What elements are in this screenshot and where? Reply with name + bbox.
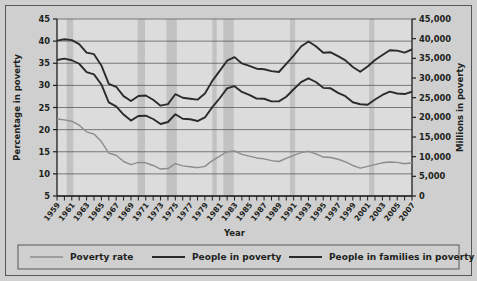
y-axis-right-tick-label: 5,000 xyxy=(419,171,445,181)
y-axis-right-tick-label: 45,000 xyxy=(419,14,451,24)
y-axis-right-tick-label: 25,000 xyxy=(419,93,451,103)
chart-figure: 4540353025201510545,00040,00035,00030,00… xyxy=(0,0,477,281)
y-axis-right: 45,00040,00035,00030,00025,00020,00015,0… xyxy=(412,14,451,201)
legend-label-1: People in poverty xyxy=(192,252,282,262)
chart-canvas: 4540353025201510545,00040,00035,00030,00… xyxy=(0,0,477,281)
y-axis-right-tick-label: 40,000 xyxy=(419,34,451,44)
x-axis-tick-label: 2007 xyxy=(397,201,417,223)
y-axis-right-tick-label: 10,000 xyxy=(419,152,451,162)
y-axis-left-tick-label: 20 xyxy=(38,125,50,135)
y-axis-left-tick-label: 10 xyxy=(38,169,50,179)
y-axis-right-tick-label: 15,000 xyxy=(419,132,451,142)
y-axis-right-tick-label: 35,000 xyxy=(419,53,451,63)
x-axis: 1959196119631965196719691971197319751977… xyxy=(42,196,417,223)
legend: Poverty ratePeople in povertyPeople in f… xyxy=(18,245,474,269)
legend-label-2: People in families in poverty xyxy=(329,252,474,262)
legend-label-0: Poverty rate xyxy=(70,252,133,262)
y-axis-left-tick-label: 30 xyxy=(38,80,50,90)
x-axis-title: Year xyxy=(223,228,246,238)
y-axis-right-tick-label: 20,000 xyxy=(419,112,451,122)
y-axis-left-tick-label: 35 xyxy=(38,58,50,68)
y-axis-left-tick-label: 25 xyxy=(38,103,50,113)
y-axis-right-tick-label: 0 xyxy=(419,191,425,201)
y-axis-left-tick-label: 5 xyxy=(44,191,50,201)
y-axis-left: 45403530252015105 xyxy=(38,14,57,201)
y-axis-left-tick-label: 15 xyxy=(38,147,50,157)
y-axis-left-tick-label: 40 xyxy=(38,36,50,46)
y-axis-right-tick-label: 30,000 xyxy=(419,73,451,83)
y-axis-left-title: Percentage in poverty xyxy=(12,54,22,161)
y-axis-left-tick-label: 45 xyxy=(38,14,50,24)
poverty-line-chart: 4540353025201510545,00040,00035,00030,00… xyxy=(0,0,477,281)
y-axis-right-title: Millions in poverty xyxy=(455,63,465,152)
